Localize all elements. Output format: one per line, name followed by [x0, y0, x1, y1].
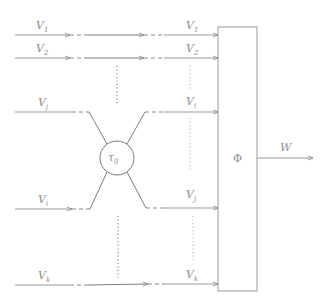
output-label-vj: Vj — [186, 188, 197, 203]
tau-label: τij — [108, 151, 119, 165]
output-label-v2: V2 — [186, 42, 199, 57]
vj-cross-in — [89, 112, 107, 144]
input-label-vi: Vi — [38, 193, 48, 208]
diagram-canvas: Φ W V1 V1 V2 V2 Vj Vi τij — [0, 0, 328, 306]
output-w-label: W — [280, 141, 293, 154]
vi-cross-out — [127, 112, 145, 144]
input-label-vj: Vj — [38, 96, 49, 111]
input-label-v1: V1 — [36, 19, 48, 34]
output-label-vk: Vk — [186, 268, 198, 283]
vj-cross-out — [127, 172, 146, 208]
vk-mid-line — [88, 284, 148, 285]
phi-label: Φ — [233, 152, 242, 165]
output-label-v1: V1 — [186, 19, 198, 34]
vi-cross-in — [90, 172, 107, 209]
input-label-v2: V2 — [36, 42, 49, 57]
input-label-vk: Vk — [38, 269, 50, 284]
output-label-vi: Vi — [186, 95, 196, 110]
row-vj — [15, 112, 218, 144]
row-vk — [15, 284, 218, 285]
